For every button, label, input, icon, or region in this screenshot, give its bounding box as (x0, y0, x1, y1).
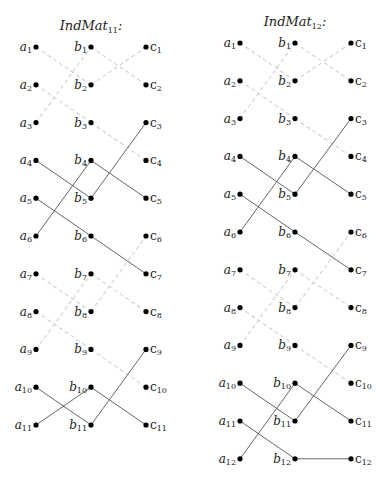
node-label-c1: c1 (150, 40, 162, 55)
node-c3 (348, 116, 353, 121)
node-label-c10: c10 (355, 376, 372, 391)
node-label-a12: a12 (219, 452, 236, 467)
node-b6 (292, 229, 297, 234)
node-label-c4: c4 (150, 153, 162, 168)
node-c2 (348, 78, 353, 83)
node-c8 (348, 305, 353, 310)
node-label-c9: c9 (355, 338, 367, 353)
node-label-c2: c2 (150, 78, 162, 93)
node-label-a2: a2 (224, 74, 236, 89)
node-b8 (88, 309, 93, 314)
node-c10 (143, 385, 148, 390)
edge-b3-c4 (91, 123, 146, 161)
edge-b6-c7 (295, 232, 351, 270)
node-c5 (143, 196, 148, 201)
node-c5 (348, 192, 353, 197)
node-a10 (33, 385, 38, 390)
graph-indmat-12: IndMat12:a1a2a3a4a5a6a7a8a9a10a11a12b1b2… (219, 14, 372, 467)
node-a9 (33, 347, 38, 352)
node-c2 (143, 82, 148, 87)
node-c12 (348, 456, 353, 461)
node-label-a4: a4 (224, 149, 236, 164)
node-b2 (292, 78, 297, 83)
edge-b4-c5 (91, 160, 146, 198)
node-label-a3: a3 (224, 112, 236, 127)
node-label-b4: b4 (74, 153, 87, 168)
node-label-a5: a5 (20, 191, 32, 206)
node-b9 (292, 343, 297, 348)
node-label-a1: a1 (224, 36, 236, 51)
node-b4 (88, 158, 93, 163)
node-a5 (237, 192, 242, 197)
edge-b11-c9 (295, 345, 351, 421)
edge-b8-c6 (91, 236, 146, 312)
node-a5 (33, 196, 38, 201)
node-c11 (348, 418, 353, 423)
node-c4 (143, 158, 148, 163)
node-label-a2: a2 (20, 78, 32, 93)
node-label-b10: b10 (273, 376, 291, 391)
node-label-b9: b9 (74, 342, 87, 357)
edge-b9-c10 (91, 349, 146, 387)
node-label-c11: c11 (355, 414, 372, 429)
node-a11 (33, 422, 38, 427)
node-label-a7: a7 (20, 267, 32, 282)
node-label-b6: b6 (278, 225, 291, 240)
edge-b10-c11 (295, 383, 351, 421)
edge-b10-c11 (91, 387, 146, 425)
node-label-a6: a6 (20, 229, 32, 244)
node-label-a1: a1 (20, 40, 32, 55)
node-label-c6: c6 (150, 229, 162, 244)
node-a1 (33, 44, 38, 49)
edge-b7-c8 (91, 274, 146, 312)
graph-title: IndMat11: (59, 18, 123, 35)
node-c9 (143, 347, 148, 352)
node-label-b9: b9 (278, 338, 291, 353)
node-c11 (143, 422, 148, 427)
node-c8 (143, 309, 148, 314)
node-label-b7: b7 (74, 267, 87, 282)
node-c1 (348, 40, 353, 45)
node-label-a11: a11 (219, 414, 236, 429)
node-label-a3: a3 (20, 116, 32, 131)
node-b10 (88, 385, 93, 390)
node-c7 (143, 271, 148, 276)
node-b6 (88, 233, 93, 238)
graph-title: IndMat12: (263, 14, 327, 31)
node-label-c7: c7 (355, 263, 367, 278)
node-label-c8: c8 (355, 301, 367, 316)
node-label-b5: b5 (278, 187, 291, 202)
node-b11 (292, 418, 297, 423)
graph-indmat-11: IndMat11:a1a2a3a4a5a6a7a8a9a10a11b1b2b3b… (15, 18, 167, 433)
node-a4 (237, 154, 242, 159)
edge-b11-c9 (91, 349, 146, 425)
node-a7 (33, 271, 38, 276)
node-a8 (33, 309, 38, 314)
node-a2 (237, 78, 242, 83)
node-label-b2: b2 (74, 78, 87, 93)
node-label-a10: a10 (15, 380, 32, 395)
node-c4 (348, 154, 353, 159)
node-label-b1: b1 (74, 40, 87, 55)
node-label-c9: c9 (150, 342, 162, 357)
node-b5 (88, 196, 93, 201)
node-b7 (88, 271, 93, 276)
node-b8 (292, 305, 297, 310)
node-b9 (88, 347, 93, 352)
node-b3 (292, 116, 297, 121)
node-a3 (33, 120, 38, 125)
edge-b5-c3 (91, 123, 146, 199)
node-a12 (237, 456, 242, 461)
node-label-b4: b4 (278, 149, 291, 164)
node-a11 (237, 418, 242, 423)
edge-b7-c8 (295, 270, 351, 308)
edge-b4-c5 (295, 156, 351, 194)
node-c9 (348, 343, 353, 348)
node-a2 (33, 82, 38, 87)
node-a8 (237, 305, 242, 310)
node-label-a11: a11 (15, 418, 32, 433)
node-label-a9: a9 (224, 338, 236, 353)
node-c10 (348, 381, 353, 386)
node-b5 (292, 192, 297, 197)
node-label-c8: c8 (150, 305, 162, 320)
